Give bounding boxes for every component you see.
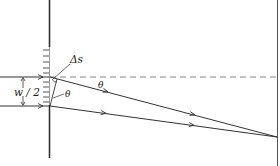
path-difference-segment [50, 79, 57, 106]
theta-leader [53, 94, 64, 98]
diffracted-ray-top [50, 77, 277, 137]
half-width-dimension: w / 2 [14, 78, 40, 106]
single-slit-diagram: w / 2 Δs θ θ [0, 0, 280, 166]
theta-label-upper: θ [98, 80, 104, 90]
theta-label-lower: θ [65, 89, 71, 99]
delta-s-label: Δs [69, 53, 84, 65]
diffracted-ray-bottom [50, 106, 277, 137]
half-width-label: w / 2 [14, 86, 40, 98]
slit-ticks [43, 50, 49, 102]
